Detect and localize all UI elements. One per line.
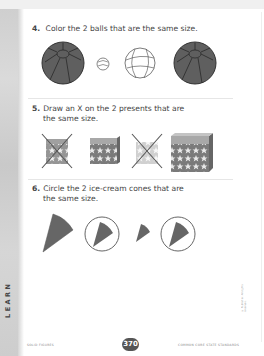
ice-cream-cone-medium-circled-icon[interactable] xyxy=(161,217,195,251)
question-4: 4. Color the 2 balls that are the same s… xyxy=(32,24,198,34)
present-small-crossed-icon[interactable] xyxy=(42,134,72,168)
balls-row xyxy=(40,40,220,90)
section-divider xyxy=(28,98,233,99)
copyright-text: © Publisher. All rights reserved. xyxy=(241,272,247,312)
question-number: 5. xyxy=(32,104,40,113)
beach-ball-large-icon[interactable] xyxy=(174,42,216,84)
question-text-line2: the same size. xyxy=(32,194,184,204)
ice-cream-cone-medium-circled-icon[interactable] xyxy=(85,217,119,251)
question-number: 6. xyxy=(32,184,40,193)
footer-left-text: SOLID FIGURES xyxy=(27,343,54,347)
presents-row xyxy=(40,130,220,175)
section-divider xyxy=(28,179,233,180)
question-text: Color the 2 balls that are the same size… xyxy=(46,24,198,33)
section-label: LEARN xyxy=(4,280,18,320)
present-large-icon[interactable] xyxy=(171,133,213,172)
basketball-medium-icon[interactable] xyxy=(125,48,155,78)
present-small-crossed-icon[interactable] xyxy=(132,134,162,168)
top-bar xyxy=(0,0,264,9)
question-5: 5.Draw an X on the 2 presents that are t… xyxy=(32,104,184,124)
beach-ball-large-icon[interactable] xyxy=(42,42,84,84)
footer-right-text: COMMON CORE STATE STANDARDS xyxy=(178,343,239,347)
question-text: Circle the 2 ice-cream cones that are xyxy=(43,184,184,193)
side-strip-edge xyxy=(18,9,24,356)
marble-ball-small-icon[interactable] xyxy=(97,58,109,70)
ice-cream-cone-large-icon[interactable] xyxy=(43,214,73,252)
question-text: Draw an X on the 2 presents that are xyxy=(43,104,184,113)
question-number: 4. xyxy=(32,24,40,33)
question-6: 6.Circle the 2 ice-cream cones that are … xyxy=(32,184,184,204)
page-number-badge: 370 xyxy=(122,338,139,351)
ice-cream-cone-small-icon[interactable] xyxy=(136,224,150,242)
cones-row xyxy=(38,212,208,262)
present-medium-icon[interactable] xyxy=(90,136,120,164)
question-text-line2: the same size. xyxy=(32,114,184,124)
page-edge xyxy=(261,12,262,342)
